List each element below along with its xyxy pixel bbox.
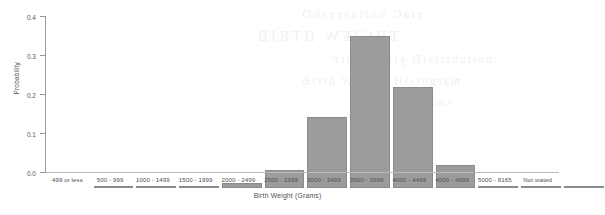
bar[interactable]: [350, 36, 390, 188]
bar-slot: [178, 32, 221, 188]
x-axis-line: [46, 172, 559, 173]
x-axis-tick-labels: 499 or less500 - 9991000 - 14991500 - 19…: [46, 176, 559, 183]
bar[interactable]: [179, 186, 219, 188]
plot-area: [46, 16, 559, 172]
y-axis-tick: 0.3: [40, 55, 45, 56]
bar-slot: [220, 32, 263, 188]
y-axis-tick: 0.2: [40, 94, 45, 95]
y-axis-tick-label: 0.0: [27, 169, 36, 176]
bar-slot: [349, 32, 392, 188]
y-axis-tick-label: 0.1: [27, 130, 36, 137]
bar-slot: [562, 32, 605, 188]
x-axis-tick-label: 4000 - 4499: [388, 176, 431, 183]
bar[interactable]: [478, 186, 518, 188]
bar-slot: [263, 32, 306, 188]
x-axis-tick-label: 3000 - 3499: [303, 176, 346, 183]
bar[interactable]: [94, 186, 134, 188]
bar[interactable]: [521, 186, 561, 188]
bar-slot: [477, 32, 520, 188]
bars-row: [92, 32, 605, 188]
x-axis-tick-label: 5000 - 8165: [474, 176, 517, 183]
x-axis-tick-label: 1500 - 1999: [174, 176, 217, 183]
y-axis-tick-label: 0.4: [27, 13, 36, 20]
bar-slot: [306, 32, 349, 188]
bar-slot: [434, 32, 477, 188]
y-axis-tick: 0.0: [40, 172, 45, 173]
bar-slot: [135, 32, 178, 188]
bar[interactable]: [564, 186, 604, 188]
x-axis-title: Birth Weight (Grams): [0, 192, 575, 199]
x-axis-tick-label: 2000 - 2499: [217, 176, 260, 183]
x-axis-tick-label: 500 - 999: [89, 176, 132, 183]
y-axis-tick-label: 0.2: [27, 91, 36, 98]
bar[interactable]: [136, 186, 176, 188]
x-axis-tick-label: 3500 - 3999: [345, 176, 388, 183]
bar-slot: [92, 32, 135, 188]
y-axis-tick: 0.4: [40, 16, 45, 17]
bar-slot: [520, 32, 563, 188]
bar[interactable]: [222, 183, 262, 188]
y-axis-tick: 0.1: [40, 133, 45, 134]
x-axis-tick-label: 2500 - 2999: [260, 176, 303, 183]
y-axis-title: Probability: [13, 62, 20, 95]
x-axis-tick-label: 1000 - 1499: [132, 176, 175, 183]
x-axis-tick-label: 499 or less: [46, 176, 89, 183]
bar-slot: [391, 32, 434, 188]
y-axis-tick-label: 0.3: [27, 52, 36, 59]
x-axis-tick-label: 4500 - 4999: [431, 176, 474, 183]
x-axis-tick-label: Not stated: [516, 176, 559, 183]
